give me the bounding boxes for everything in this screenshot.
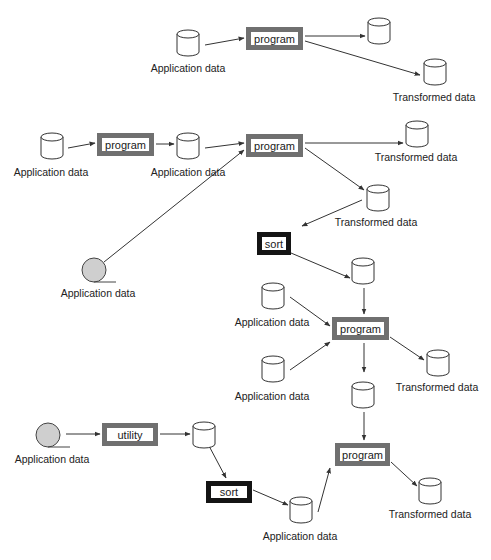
- flow-arrow: [391, 462, 417, 486]
- connector-layer: [0, 0, 491, 560]
- datastore-label: Transformed data: [393, 91, 475, 103]
- disk-cylinder-icon: [177, 133, 199, 159]
- process-label: utility: [117, 429, 142, 441]
- flow-arrow: [291, 253, 350, 278]
- tape-reel-icon: [82, 258, 116, 282]
- process-label: program: [105, 139, 146, 151]
- program-process-box: program: [246, 134, 303, 157]
- flow-arrow: [305, 41, 420, 75]
- disk-cylinder-icon: [193, 422, 215, 448]
- process-label: sort: [265, 238, 283, 250]
- flow-arrow: [205, 143, 244, 148]
- datastore-label: Application data: [263, 530, 338, 542]
- disk-cylinder-icon: [427, 350, 449, 376]
- datastore-label: Application data: [14, 166, 89, 178]
- flow-arrow: [205, 38, 244, 45]
- flow-arrow: [68, 143, 95, 148]
- datastore-label: Application data: [151, 62, 226, 74]
- disk-cylinder-icon: [290, 497, 312, 523]
- disk-cylinder-icon: [352, 258, 374, 284]
- datastore-label: Transformed data: [335, 216, 417, 228]
- disk-cylinder-icon: [41, 133, 63, 159]
- flow-arrow: [318, 468, 330, 512]
- tape-reel-icon: [36, 423, 70, 447]
- disk-cylinder-icon: [352, 382, 374, 408]
- flow-arrow: [253, 490, 288, 505]
- program-process-box: program: [246, 27, 303, 50]
- disk-cylinder-icon: [262, 356, 284, 382]
- disk-cylinder-icon: [424, 59, 446, 85]
- process-label: sort: [220, 486, 238, 498]
- process-label: program: [254, 33, 295, 45]
- datastore-label: Transformed data: [396, 381, 478, 393]
- program-process-box: program: [332, 317, 389, 340]
- datastore-label: Transformed data: [375, 151, 457, 163]
- sort-process-box: sort: [257, 232, 291, 255]
- program-process-box: program: [97, 133, 154, 156]
- utility-process-box: utility: [102, 423, 158, 446]
- disk-cylinder-icon: [262, 283, 284, 309]
- datastore-label: Application data: [235, 316, 310, 328]
- datastore-label: Transformed data: [389, 508, 471, 520]
- sort-process-box: sort: [206, 481, 252, 503]
- process-label: program: [340, 323, 381, 335]
- datastore-label: Application data: [235, 390, 310, 402]
- flow-arrow: [390, 337, 424, 360]
- process-label: program: [254, 140, 295, 152]
- disk-cylinder-icon: [406, 121, 428, 147]
- datastore-label: Application data: [61, 287, 136, 299]
- program-process-box: program: [335, 443, 390, 466]
- datastore-label: Application data: [15, 453, 90, 465]
- disk-cylinder-icon: [177, 30, 199, 56]
- disk-cylinder-icon: [368, 18, 390, 44]
- disk-cylinder-icon: [367, 185, 389, 211]
- datastore-label: Application data: [151, 166, 226, 178]
- flow-arrow: [208, 444, 226, 478]
- flow-arrow: [290, 342, 330, 370]
- disk-cylinder-icon: [419, 478, 441, 504]
- flow-arrow: [305, 148, 364, 190]
- process-label: program: [342, 449, 383, 461]
